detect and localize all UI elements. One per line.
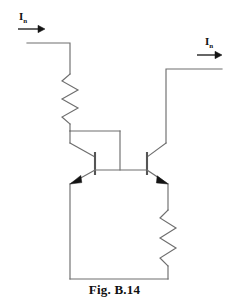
output-current-arrow [197, 51, 222, 58]
input-current-arrow [18, 25, 45, 32]
left-transistor [70, 131, 120, 279]
output-current-label: In [205, 36, 213, 50]
input-current-subscript: n [23, 17, 27, 25]
output-wire [166, 69, 222, 143]
input-current-label: In [19, 11, 27, 25]
right-transistor [147, 143, 168, 210]
figure-container: In In Fig. B.14 [0, 0, 229, 303]
figure-caption: Fig. B.14 [0, 282, 229, 298]
right-emitter-resistor [160, 210, 176, 279]
input-wire [27, 43, 70, 74]
left-bias-resistor [62, 74, 78, 131]
circuit-schematic [0, 0, 229, 303]
output-current-subscript: n [209, 42, 213, 50]
